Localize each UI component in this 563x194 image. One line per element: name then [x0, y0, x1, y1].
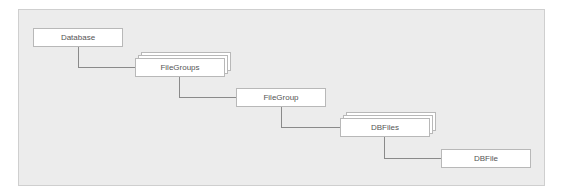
node-label: DBFile [474, 154, 498, 163]
node-filegroup: FileGroup [236, 88, 326, 107]
node-label: DBFiles [371, 123, 399, 132]
node-label: FileGroups [160, 63, 199, 72]
connector-filegroups-filegroup [179, 97, 236, 98]
connector-filegroups-filegroup [179, 77, 180, 97]
node-dbfile: DBFile [441, 149, 531, 168]
connector-dbfiles-dbfile [384, 158, 441, 159]
connector-dbfiles-dbfile [384, 137, 385, 158]
node-dbfiles: DBFiles [340, 118, 430, 137]
connector-filegroup-dbfiles [281, 106, 282, 127]
node-database: Database [33, 28, 123, 47]
node-label: FileGroup [263, 93, 298, 102]
connector-database-filegroups [78, 46, 79, 67]
node-label: Database [61, 33, 95, 42]
node-filegroups: FileGroups [135, 58, 225, 77]
connector-database-filegroups [78, 67, 135, 68]
connector-filegroup-dbfiles [281, 127, 340, 128]
